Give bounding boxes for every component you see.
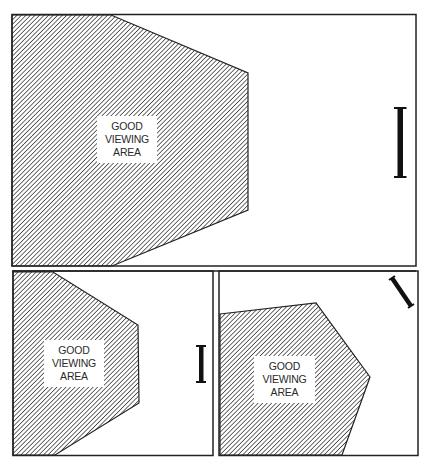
label-line: VIEWING bbox=[262, 373, 306, 386]
label-line: VIEWING bbox=[105, 133, 149, 146]
bottom-right-angled-screen-icon bbox=[389, 276, 414, 308]
label-line: GOOD bbox=[111, 120, 142, 133]
top-good-viewing-area-label: GOOD VIEWING AREA bbox=[97, 116, 157, 163]
bottom-left-screen-icon bbox=[196, 345, 206, 383]
bottom-left-panel bbox=[13, 271, 213, 456]
top-panel bbox=[12, 15, 416, 267]
label-line: GOOD bbox=[58, 344, 89, 357]
bottom-right-good-viewing-area-label: GOOD VIEWING AREA bbox=[254, 356, 315, 403]
top-screen-icon bbox=[394, 107, 407, 178]
label-line: AREA bbox=[113, 146, 141, 159]
viewing-area-diagram bbox=[0, 0, 429, 465]
bottom-right-panel bbox=[219, 271, 418, 456]
bottom-left-good-viewing-area-label: GOOD VIEWING AREA bbox=[44, 340, 104, 387]
label-line: VIEWING bbox=[52, 357, 96, 370]
label-line: AREA bbox=[60, 370, 88, 383]
label-line: AREA bbox=[271, 386, 299, 399]
label-line: GOOD bbox=[269, 360, 300, 373]
